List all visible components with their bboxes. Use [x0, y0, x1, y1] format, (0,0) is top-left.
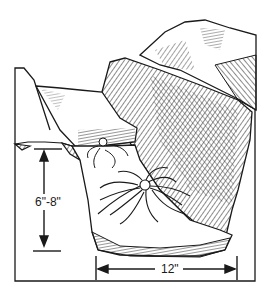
illustration: 6"-8" 12" [0, 0, 271, 302]
soil-cross-section-drawing [0, 0, 271, 302]
depth-label: 6"-8" [33, 196, 63, 209]
width-label: 12" [159, 263, 181, 276]
ground-surface [15, 142, 80, 160]
